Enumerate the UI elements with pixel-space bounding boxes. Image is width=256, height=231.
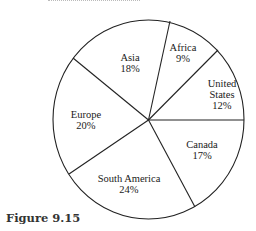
slice-value: 24% xyxy=(98,184,161,195)
slice-value: 9% xyxy=(170,53,197,64)
slice-label-south-america: South America 24% xyxy=(98,173,161,195)
figure-label: Figure xyxy=(6,211,48,225)
figure-caption: Figure9.15 xyxy=(6,211,80,225)
pie-chart xyxy=(0,0,256,231)
slice-name-line2: States xyxy=(208,89,237,100)
slice-label-asia: Asia 18% xyxy=(120,52,139,74)
figure-number: 9.15 xyxy=(52,211,80,225)
slice-label-africa: Africa 9% xyxy=(170,42,197,64)
slice-value: 12% xyxy=(208,100,237,111)
slice-name: South America xyxy=(98,173,161,184)
slice-name: Africa xyxy=(170,42,197,53)
slice-name: United xyxy=(208,78,237,89)
slice-label-united-states: United States 12% xyxy=(208,78,237,111)
slice-label-europe: Europe 20% xyxy=(71,109,101,131)
slice-name: Canada xyxy=(186,139,218,150)
slice-value: 18% xyxy=(120,63,139,74)
slice-label-canada: Canada 17% xyxy=(186,139,218,161)
slice-value: 20% xyxy=(71,120,101,131)
slice-value: 17% xyxy=(186,150,218,161)
slice-name: Europe xyxy=(71,109,101,120)
slice-name: Asia xyxy=(120,52,139,63)
